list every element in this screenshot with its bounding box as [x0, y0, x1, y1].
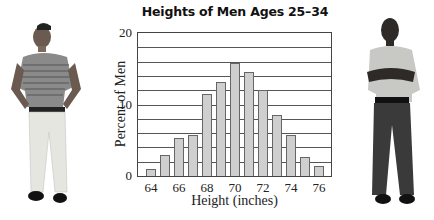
gridline: [138, 47, 331, 48]
bar-74: [286, 135, 296, 176]
bar-75: [300, 157, 310, 176]
x-axis-label: Height (inches): [137, 193, 332, 209]
chart-title: Heights of Men Ages 25–34: [130, 4, 340, 19]
bar-70: [230, 63, 240, 176]
bar-72: [258, 90, 268, 177]
plot-area: [137, 32, 332, 177]
bar-66: [174, 138, 184, 176]
bar-68: [202, 94, 212, 176]
y-tick-label: 10: [119, 97, 132, 113]
bar-76: [314, 166, 324, 176]
bar-73: [272, 115, 282, 176]
bar-67: [188, 135, 198, 176]
bar-69: [216, 82, 226, 176]
bar-64: [146, 169, 156, 176]
y-tick-label: 0: [126, 168, 133, 184]
y-tick-label: 20: [119, 25, 132, 41]
person-photo-left: [5, 15, 95, 215]
person-photo-right: [355, 8, 434, 208]
bar-71: [244, 72, 254, 176]
bar-65: [160, 155, 170, 176]
